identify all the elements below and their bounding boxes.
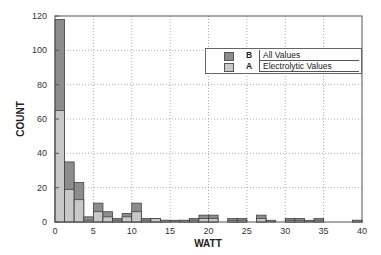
bar-electrolytic-values [65, 189, 75, 222]
y-tick-label: 60 [37, 114, 47, 124]
legend-label: All Values [259, 50, 359, 61]
histogram-chart: 020406080100120 0510152025303540 WATT CO… [0, 0, 381, 255]
bar-electrolytic-values [122, 217, 132, 222]
bar-electrolytic-values [93, 212, 103, 222]
x-tick-label: 0 [52, 226, 57, 236]
legend-swatch-b [224, 52, 234, 61]
legend-code: B [246, 50, 252, 60]
bar-electrolytic-values [199, 219, 209, 222]
bar-electrolytic-values [209, 219, 219, 222]
y-tick-label: 80 [37, 80, 47, 90]
bar-electrolytic-values [256, 219, 266, 222]
bar-electrolytic-values [103, 217, 113, 222]
x-tick-label: 20 [203, 226, 213, 236]
y-tick-label: 120 [32, 11, 47, 21]
x-tick-label: 25 [242, 226, 252, 236]
legend-item-electrolytic-values: A Electrolytic Values [206, 61, 361, 72]
legend-swatch-a [224, 63, 234, 72]
bar-electrolytic-values [132, 212, 142, 222]
y-tick-label: 100 [32, 45, 47, 55]
x-tick-label: 10 [127, 226, 137, 236]
x-tick-label: 30 [280, 226, 290, 236]
legend-label: Electrolytic Values [259, 61, 359, 72]
x-axis-title: WATT [194, 238, 222, 249]
bar-electrolytic-values [74, 200, 84, 222]
y-tick-label: 0 [42, 217, 47, 227]
legend-code: A [246, 61, 252, 71]
x-tick-label: 35 [319, 226, 329, 236]
y-tick-label: 20 [37, 183, 47, 193]
y-axis-title: COUNT [15, 101, 26, 137]
bar-electrolytic-values [151, 219, 161, 222]
grid-lines [55, 16, 362, 222]
legend-item-all-values: B All Values [206, 50, 361, 61]
x-tick-label: 5 [91, 226, 96, 236]
y-tick-label: 40 [37, 148, 47, 158]
x-tick-label: 40 [357, 226, 367, 236]
legend: B All Values A Electrolytic Values [205, 48, 362, 74]
x-axis-ticks: 0510152025303540 [52, 226, 367, 236]
x-tick-label: 15 [165, 226, 175, 236]
bar-electrolytic-values [55, 110, 65, 222]
